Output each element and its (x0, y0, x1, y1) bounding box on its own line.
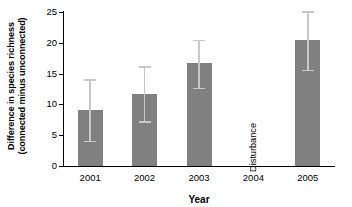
error-bar-line-2001 (89, 79, 91, 141)
y-axis-title-line-2: (connected minus unconnected) (17, 0, 28, 172)
error-bar-line-2003 (198, 40, 200, 88)
y-tick-mark (59, 43, 63, 44)
error-bar-cap-upper-2005 (302, 11, 314, 13)
x-tick-label-2002: 2002 (125, 172, 165, 183)
error-bar-line-2002 (144, 66, 146, 121)
y-axis-title-line-1: Difference in species richness (6, 0, 17, 172)
x-axis-line (63, 166, 335, 167)
annotation-disturbance: Disturbance (248, 123, 258, 172)
error-bar-cap-upper-2001 (84, 79, 96, 81)
x-tick-label-2005: 2005 (288, 172, 328, 183)
y-axis-line (63, 11, 64, 167)
y-tick-label: 25 (35, 6, 57, 17)
error-bar-cap-upper-2002 (139, 66, 151, 68)
y-tick-mark (59, 12, 63, 13)
y-tick-mark (59, 166, 63, 167)
y-tick-label: 5 (35, 129, 57, 140)
y-tick-label: 15 (35, 68, 57, 79)
error-bar-line-2005 (307, 11, 309, 70)
x-tick-label-2003: 2003 (179, 172, 219, 183)
y-tick-label: 20 (35, 37, 57, 48)
y-tick-label: 10 (35, 98, 57, 109)
error-bar-cap-lower-2005 (302, 70, 314, 72)
error-bar-cap-lower-2002 (139, 121, 151, 123)
y-tick-label: 0 (35, 160, 57, 171)
x-axis-title: Year (63, 194, 335, 206)
error-bar-cap-upper-2003 (193, 40, 205, 42)
error-bar-cap-lower-2001 (84, 141, 96, 143)
x-tick-label-2001: 2001 (70, 172, 110, 183)
x-tick-label-2004: 2004 (233, 172, 273, 183)
y-axis-title: Difference in species richness (connecte… (0, 0, 34, 172)
y-tick-mark (59, 74, 63, 75)
bar-chart-figure: Difference in species richness (connecte… (0, 0, 352, 207)
error-bar-cap-lower-2003 (193, 88, 205, 90)
y-tick-mark (59, 135, 63, 136)
y-tick-mark (59, 104, 63, 105)
plot-area: 0510152025 Disturbance 20012002200320042… (63, 12, 335, 166)
